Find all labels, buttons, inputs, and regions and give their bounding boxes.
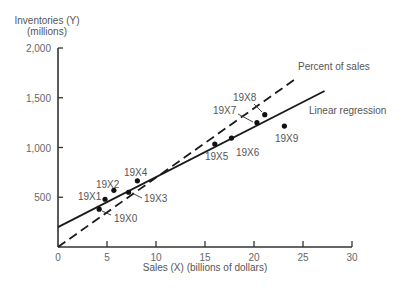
inventory-sales-chart: Inventories (Y)(millions) 5001,0001,5002… bbox=[0, 0, 409, 295]
linear-regression-label: Linear regression bbox=[309, 105, 386, 116]
point-label: 19X4 bbox=[124, 167, 148, 178]
point-label: 19X7 bbox=[213, 105, 237, 116]
data-points bbox=[97, 112, 287, 212]
y-axis-title-line: Inventories (Y) bbox=[14, 15, 79, 26]
x-axis-title: Sales (X) (billions of dollars) bbox=[143, 262, 268, 273]
data-point bbox=[212, 141, 217, 146]
point-label: 19X0 bbox=[114, 213, 138, 224]
x-tick-label: 5 bbox=[104, 252, 110, 263]
percent-of-sales-label: Percent of sales bbox=[298, 61, 370, 72]
point-labels: 19X019X119X219X319X419X519X619X719X819X9 bbox=[78, 92, 299, 224]
percent-of-sales-line bbox=[58, 78, 297, 247]
x-tick-label: 30 bbox=[346, 252, 358, 263]
fit-lines bbox=[58, 78, 325, 247]
data-point bbox=[229, 135, 234, 140]
data-point bbox=[254, 120, 259, 125]
point-label: 19X3 bbox=[144, 193, 168, 204]
point-label: 19X1 bbox=[78, 191, 102, 202]
data-point bbox=[126, 190, 131, 195]
axes bbox=[58, 48, 352, 247]
leader-line bbox=[132, 193, 142, 198]
data-point bbox=[102, 197, 107, 202]
point-label: 19X2 bbox=[96, 179, 120, 190]
x-tick-label: 0 bbox=[55, 252, 61, 263]
linear-regression-line bbox=[58, 91, 325, 227]
data-point bbox=[135, 178, 140, 183]
x-tick-label: 25 bbox=[297, 252, 309, 263]
data-point bbox=[282, 124, 287, 129]
y-tick-label: 1,500 bbox=[26, 93, 51, 104]
point-label: 19X6 bbox=[236, 147, 260, 158]
y-axis-title-line: (millions) bbox=[27, 26, 67, 37]
y-axis-title: Inventories (Y)(millions) bbox=[14, 15, 79, 37]
point-label: 19X9 bbox=[275, 133, 299, 144]
point-label: 19X8 bbox=[233, 92, 257, 103]
y-tick-label: 1,000 bbox=[26, 143, 51, 154]
data-point bbox=[97, 207, 102, 212]
point-label: 19X5 bbox=[205, 151, 229, 162]
y-tick-label: 500 bbox=[34, 192, 51, 203]
data-point bbox=[262, 112, 267, 117]
x-axis-ticks: 051015202530 bbox=[55, 241, 358, 263]
y-tick-label: 2,000 bbox=[26, 43, 51, 54]
